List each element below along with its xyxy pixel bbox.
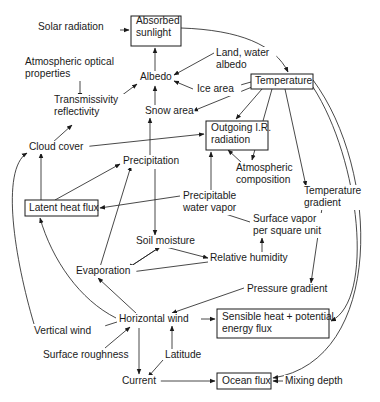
node-label: Evaporation bbox=[76, 265, 130, 276]
edge-ice-area-to-albedo bbox=[174, 81, 193, 89]
edge-evaporation-to-soil-moisture bbox=[128, 247, 160, 268]
node-label: Pressure gradient bbox=[247, 283, 328, 294]
node-mixing-depth: Mixing depth bbox=[284, 375, 351, 388]
node-label: Atmospheric bbox=[236, 162, 293, 173]
node-label: reflectivity bbox=[54, 106, 100, 117]
node-label: Precipitation bbox=[123, 155, 179, 166]
node-solar-radiation: Solar radiation bbox=[37, 21, 120, 34]
edge-surface-roughness-to-horizontal-wind bbox=[105, 327, 130, 348]
node-snow-area: Snow area bbox=[144, 105, 195, 118]
node-label: Current bbox=[122, 375, 156, 386]
node-label: Cloud cover bbox=[29, 141, 84, 152]
node-atmospheric-optical-properties: Atmospheric opticalproperties bbox=[24, 56, 129, 81]
node-pressure-gradient: Pressure gradient bbox=[246, 283, 340, 296]
node-label: Land, water bbox=[216, 47, 270, 58]
node-sensible-heat: Sensible heat + potentialenergy flux bbox=[217, 309, 334, 338]
node-label: water vapor bbox=[182, 202, 237, 213]
node-label: composition bbox=[236, 174, 290, 185]
node-label: Solar radiation bbox=[38, 21, 104, 32]
node-label: Latitude bbox=[165, 349, 202, 360]
node-label: properties bbox=[25, 68, 70, 79]
node-label: Precipitable bbox=[183, 190, 237, 201]
node-label: sunlight bbox=[136, 27, 171, 38]
node-albedo: Albedo bbox=[139, 71, 173, 84]
node-land-water-albedo: Land, wateralbedo bbox=[215, 47, 276, 72]
edge-vertical-wind-to-cloud-cover bbox=[12, 153, 34, 324]
node-current: Current bbox=[121, 375, 161, 388]
edge-relative-humidity-to-evaporation bbox=[131, 262, 208, 272]
node-label: Mixing depth bbox=[285, 375, 343, 386]
node-label: radiation bbox=[211, 134, 250, 145]
node-label: Latent heat flux bbox=[29, 202, 99, 213]
node-relative-humidity: Relative humidity bbox=[209, 252, 303, 265]
edge-cloud-cover-to-outgoing-ir bbox=[82, 134, 204, 147]
node-precipitation: Precipitation bbox=[122, 155, 194, 168]
node-latitude: Latitude bbox=[164, 349, 209, 362]
node-label: Temperature bbox=[304, 185, 362, 196]
node-surface-vapor: Surface vaporper square unit bbox=[252, 213, 335, 238]
node-label: Horizontal wind bbox=[119, 313, 189, 324]
node-label: Surface roughness bbox=[43, 349, 129, 360]
node-vertical-wind: Vertical wind bbox=[33, 325, 105, 338]
node-label: Surface vapor bbox=[253, 213, 317, 224]
node-ice-area: Ice area bbox=[196, 83, 241, 96]
edge-evaporation-to-precipitation bbox=[100, 166, 131, 267]
node-transmissivity-reflectivity: Transmissivityreflectivity bbox=[53, 94, 131, 119]
node-label: gradient bbox=[304, 197, 341, 208]
node-ocean-flux: Ocean flux bbox=[217, 373, 271, 389]
node-temperature: Temperature bbox=[251, 74, 313, 89]
node-label: Outgoing I.R. bbox=[211, 122, 271, 133]
edge-land-water-albedo-to-albedo bbox=[174, 53, 214, 75]
edge-horizontal-wind-to-evaporation bbox=[98, 278, 137, 314]
climate-feedback-diagram: Solar radiationAbsorbedsunlightLand, wat… bbox=[0, 0, 380, 402]
node-label: energy flux bbox=[222, 323, 272, 334]
node-label: Snow area bbox=[145, 105, 194, 116]
edge-precipitable-water-vapor-to-latent-heat-flux bbox=[100, 196, 180, 208]
node-label: Temperature bbox=[255, 75, 313, 86]
node-precipitable-water-vapor: Precipitablewater vapor bbox=[182, 190, 249, 215]
node-outgoing-ir: Outgoing I.R.radiation bbox=[206, 121, 271, 150]
node-label: per square unit bbox=[253, 225, 321, 236]
node-label: Ocean flux bbox=[222, 375, 271, 386]
node-label: Relative humidity bbox=[210, 252, 288, 263]
node-absorbed-sunlight: Absorbedsunlight bbox=[131, 15, 181, 46]
node-surface-roughness: Surface roughness bbox=[42, 349, 136, 362]
node-label: Atmospheric optical bbox=[25, 56, 114, 67]
node-evaporation: Evaporation bbox=[75, 265, 136, 278]
node-horizontal-wind: Horizontal wind bbox=[118, 313, 201, 326]
node-label: Absorbed bbox=[136, 15, 180, 26]
node-label: Transmissivity bbox=[54, 94, 119, 105]
node-temperature-gradient: Temperaturegradient bbox=[303, 185, 364, 210]
node-label: Sensible heat + potential bbox=[222, 311, 334, 322]
edge-latent-heat-flux-to-precipitation bbox=[55, 164, 120, 200]
node-latent-heat-flux: Latent heat flux bbox=[25, 200, 99, 216]
node-label: Albedo bbox=[140, 71, 172, 82]
node-layer: Solar radiationAbsorbedsunlightLand, wat… bbox=[24, 15, 364, 389]
node-label: Ice area bbox=[197, 83, 234, 94]
node-atmospheric-composition: Atmosphericcomposition bbox=[235, 162, 296, 187]
node-cloud-cover: Cloud cover bbox=[28, 141, 89, 154]
node-label: Soil moisture bbox=[136, 235, 195, 246]
node-soil-moisture: Soil moisture bbox=[135, 235, 207, 248]
node-label: Vertical wind bbox=[34, 325, 92, 336]
node-label: albedo bbox=[216, 59, 247, 70]
